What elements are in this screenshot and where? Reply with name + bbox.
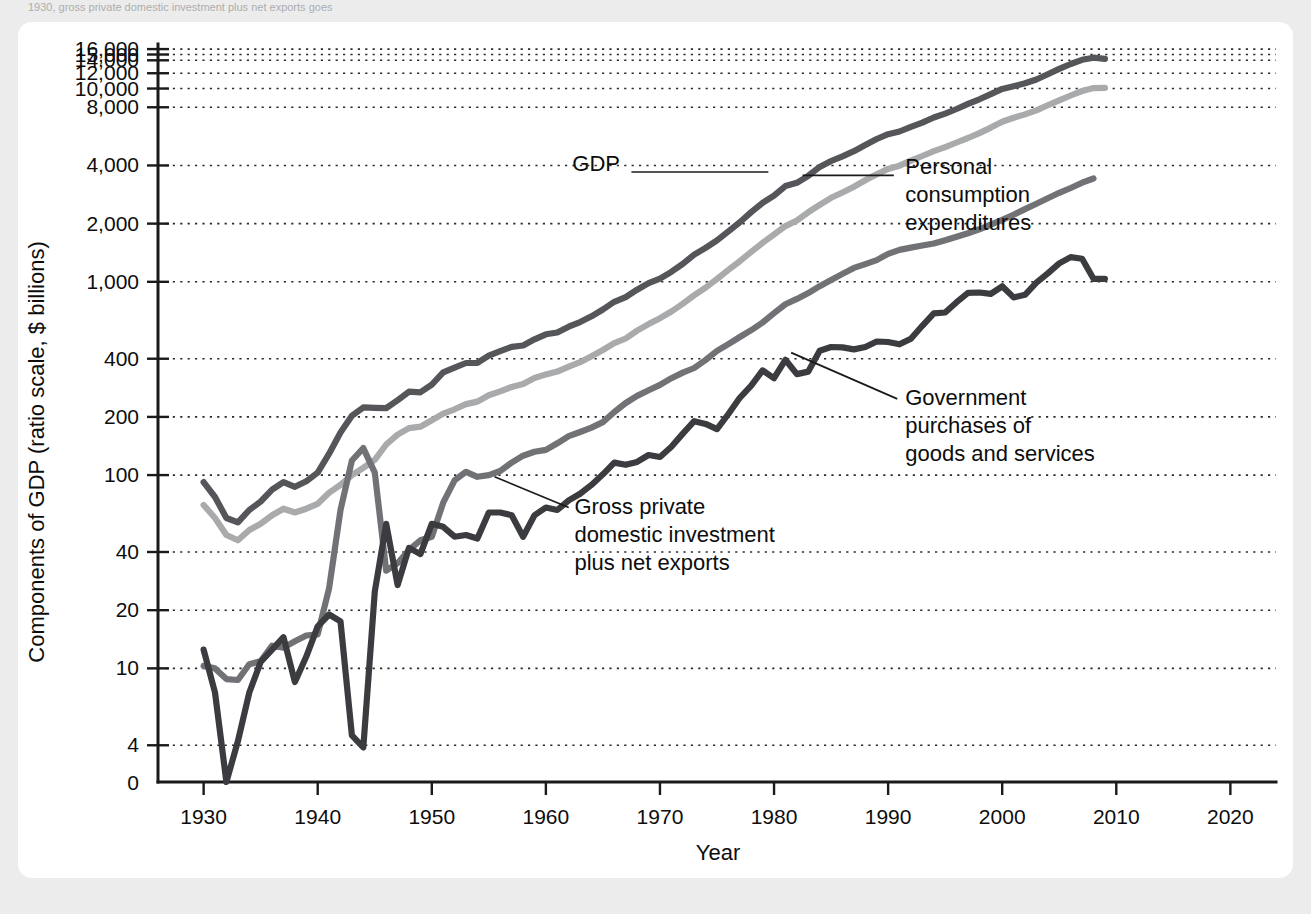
annotation-gross-private-investment: plus net exports — [574, 550, 729, 575]
x-tick-label: 1930 — [180, 805, 227, 828]
y-tick-label: 40 — [116, 540, 139, 563]
annotation-personal-consumption: consumption — [905, 182, 1030, 207]
y-tick-label: 100 — [104, 463, 139, 486]
annotation-government-purchases: goods and services — [905, 441, 1095, 466]
x-tick-label: 1940 — [294, 805, 341, 828]
axis-ticks — [147, 49, 1230, 795]
x-tick-labels: 1930194019501960197019801990200020102020 — [180, 805, 1253, 828]
figure-caption-partial: 1930, gross private domestic investment … — [0, 0, 1311, 14]
annotation-gross-private-investment: domestic investment — [574, 522, 775, 547]
y-tick-labels: 41020401002004001,0002,0004,0008,00010,0… — [75, 37, 140, 794]
leader-line — [791, 353, 897, 399]
x-tick-label: 2000 — [979, 805, 1026, 828]
x-axis-title: Year — [696, 840, 740, 865]
annotation-personal-consumption: Personal — [905, 154, 992, 179]
axis-lines — [158, 44, 1276, 782]
y-tick-label-zero: 0 — [127, 771, 139, 794]
x-tick-label: 1990 — [865, 805, 912, 828]
x-tick-label: 1960 — [523, 805, 570, 828]
leader-line — [495, 477, 569, 508]
y-tick-label: 10 — [116, 656, 139, 679]
y-tick-label: 400 — [104, 347, 139, 370]
annotation-government-purchases: purchases of — [905, 413, 1032, 438]
y-tick-label: 200 — [104, 405, 139, 428]
y-tick-label: 4,000 — [86, 153, 139, 176]
page-root: 1930, gross private domestic investment … — [0, 0, 1311, 914]
annotation-government-purchases: Government — [905, 385, 1026, 410]
x-tick-label: 1970 — [637, 805, 684, 828]
gdp-components-line-chart: 41020401002004001,0002,0004,0008,00010,0… — [18, 22, 1293, 878]
x-tick-label: 1980 — [751, 805, 798, 828]
gridlines — [158, 49, 1276, 745]
annotation-gross-private-investment: Gross private — [574, 494, 705, 519]
x-tick-label: 1950 — [408, 805, 455, 828]
y-tick-label: 16,000 — [75, 37, 139, 60]
y-tick-label: 20 — [116, 598, 139, 621]
y-tick-label: 4 — [127, 733, 139, 756]
annotation-personal-consumption: expenditures — [905, 210, 1031, 235]
x-tick-label: 2010 — [1093, 805, 1140, 828]
x-tick-label: 2020 — [1207, 805, 1254, 828]
y-tick-label: 1,000 — [86, 270, 139, 293]
y-tick-label: 2,000 — [86, 212, 139, 235]
annotation-gdp: GDP — [572, 151, 620, 176]
y-axis-title: Components of GDP (ratio scale, $ billio… — [24, 241, 49, 662]
chart-card: 41020401002004001,0002,0004,0008,00010,0… — [18, 22, 1293, 878]
